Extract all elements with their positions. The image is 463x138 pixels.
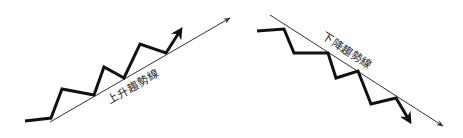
- uptrend-group: 上升趨勢線: [25, 18, 230, 122]
- trendline-diagram: 上升趨勢線 下降趨勢線: [0, 0, 463, 138]
- downtrend-group: 下降趨勢線: [257, 15, 443, 126]
- uptrend-line: [50, 18, 230, 122]
- downtrend-label: 下降趨勢線: [319, 29, 375, 72]
